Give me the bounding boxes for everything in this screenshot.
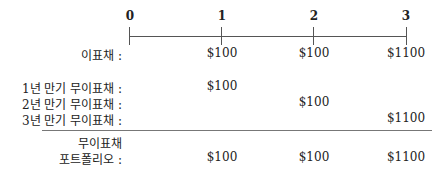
coupon-bond-cf-1: $100 — [207, 46, 238, 60]
tick-label-0: 0 — [126, 9, 134, 23]
coupon-bond-cf-2: $100 — [299, 46, 330, 60]
portfolio-cf-1: $100 — [207, 150, 238, 164]
coupon-bond-cf-3: $1100 — [387, 46, 425, 60]
portfolio-cf-2: $100 — [299, 150, 330, 164]
tick-mark-3 — [406, 27, 407, 45]
zero-bond-3-cf: $1100 — [387, 111, 425, 125]
portfolio-label-line2: 포트폴리오 : — [59, 150, 122, 167]
separator-line — [42, 130, 432, 131]
zero-bond-3-label: 3년 만기 무이표채 : — [22, 111, 122, 128]
tick-label-1: 1 — [218, 9, 226, 23]
portfolio-cf-3: $1100 — [387, 150, 425, 164]
tick-mark-2 — [313, 27, 314, 45]
portfolio-label-line1: 무이표채 — [78, 134, 122, 151]
zero-bond-1-cf: $100 — [207, 79, 238, 93]
tick-label-2: 2 — [310, 9, 318, 23]
coupon-bond-label: 이표채 : — [81, 46, 122, 63]
zero-bond-1-label: 1년 만기 무이표채 : — [22, 79, 122, 96]
zero-bond-2-label: 2년 만기 무이표채 : — [22, 95, 122, 112]
tick-mark-0 — [129, 27, 130, 45]
timeline-axis — [129, 36, 406, 37]
tick-label-3: 3 — [402, 9, 410, 23]
tick-mark-1 — [221, 27, 222, 45]
zero-bond-2-cf: $100 — [299, 95, 330, 109]
